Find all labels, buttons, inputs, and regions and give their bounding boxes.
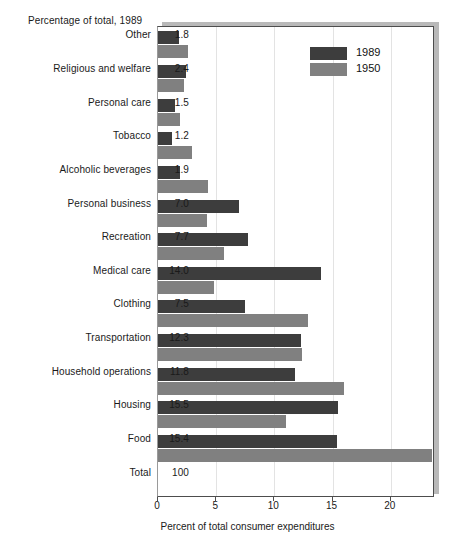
gridline-15 — [333, 27, 334, 496]
legend-item-1989: 1989 — [310, 46, 415, 61]
gridline-20 — [391, 27, 392, 496]
x-tick-label-20: 20 — [375, 500, 405, 511]
category-value-other: 1.8 — [155, 29, 189, 40]
category-label-medical-care: Medical care — [93, 265, 151, 276]
category-value-personal-business: 7.0 — [155, 198, 189, 209]
bar-1950-household-operations — [158, 382, 344, 395]
chart-header-label: Percentage of total, 1989 — [28, 15, 142, 26]
category-value-tobacco: 1.2 — [155, 130, 189, 141]
category-label-food: Food — [128, 433, 151, 444]
category-value-household-operations: 11.8 — [155, 366, 189, 377]
bar-1950-food — [158, 449, 432, 462]
category-label-housing: Housing — [114, 399, 151, 410]
category-value-housing: 15.5 — [155, 399, 189, 410]
category-value-alcoholic-beverages: 1.9 — [155, 164, 189, 175]
x-tick-label-0: 0 — [142, 500, 172, 511]
category-label-alcoholic-beverages: Alcoholic beverages — [60, 164, 151, 175]
x-axis-label: Percent of total consumer expenditures — [0, 521, 451, 532]
category-label-total: Total — [129, 467, 151, 478]
bar-1950-religious-and-welfare — [158, 79, 184, 92]
category-value-religious-and-welfare: 2.4 — [155, 63, 189, 74]
category-value-transportation: 12.3 — [155, 332, 189, 343]
bar-1950-other — [158, 45, 188, 58]
x-tick-label-10: 10 — [258, 500, 288, 511]
chart-figure: Percentage of total, 1989 Other1.8Religi… — [0, 0, 451, 549]
category-label-household-operations: Household operations — [52, 366, 151, 377]
category-label-other: Other — [125, 29, 151, 40]
legend-label-1950: 1950 — [356, 62, 380, 74]
category-label-tobacco: Tobacco — [113, 130, 151, 141]
x-tick-label-15: 15 — [317, 500, 347, 511]
legend-label-1989: 1989 — [356, 46, 380, 58]
category-label-personal-care: Personal care — [88, 97, 151, 108]
category-value-food: 15.4 — [155, 433, 189, 444]
bar-1950-clothing — [158, 314, 308, 327]
plot-area — [157, 26, 434, 497]
bar-1950-tobacco — [158, 146, 192, 159]
bar-1950-transportation — [158, 348, 302, 361]
category-label-religious-and-welfare: Religious and welfare — [53, 63, 151, 74]
category-label-recreation: Recreation — [102, 231, 151, 242]
category-value-clothing: 7.5 — [155, 298, 189, 309]
legend-swatch-1950 — [310, 63, 347, 76]
bar-1950-alcoholic-beverages — [158, 180, 208, 193]
bar-1950-housing — [158, 415, 286, 428]
category-value-personal-care: 1.5 — [155, 97, 189, 108]
category-value-medical-care: 14.0 — [155, 265, 189, 276]
bar-1950-personal-care — [158, 113, 180, 126]
category-label-clothing: Clothing — [114, 298, 152, 309]
category-value-recreation: 7.7 — [155, 231, 189, 242]
chart-legend: 1989 1950 — [310, 46, 415, 78]
category-label-transportation: Transportation — [85, 332, 151, 343]
legend-swatch-1989 — [310, 47, 347, 60]
category-value-total: 100 — [155, 467, 189, 478]
bar-1950-recreation — [158, 247, 224, 260]
category-label-personal-business: Personal business — [68, 198, 151, 209]
x-tick-label-5: 5 — [200, 500, 230, 511]
legend-item-1950: 1950 — [310, 62, 415, 77]
bar-1950-medical-care — [158, 281, 214, 294]
bar-1950-personal-business — [158, 214, 207, 227]
